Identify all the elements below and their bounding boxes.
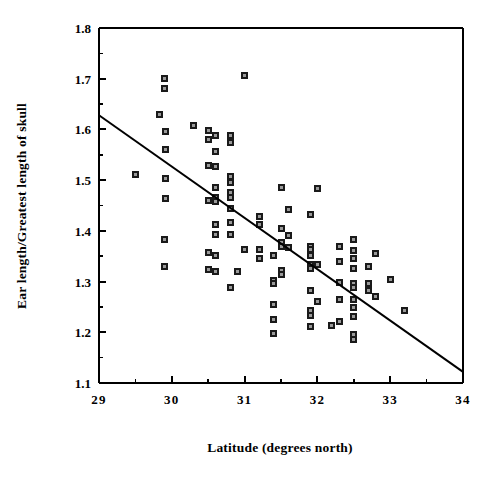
data-point [350,255,357,262]
data-point [350,336,357,343]
data-point [205,266,212,273]
y-tick-label: 1.4 [75,224,92,239]
x-tick-label: 33 [382,392,397,407]
data-point [387,276,394,283]
data-point [227,139,234,146]
data-point [132,171,139,178]
x-tick-label: 34 [455,392,470,407]
y-tick-label: 1.5 [75,173,92,188]
data-point [190,122,197,129]
data-point [372,293,379,300]
data-point [234,268,241,275]
data-point [350,265,357,272]
data-point [285,232,292,239]
data-point [227,284,234,291]
data-point [270,316,277,323]
data-point [336,258,343,265]
data-point [256,246,263,253]
data-point [365,280,372,287]
y-axis-title: Ear length/Greatest length of skull [14,103,29,309]
y-tick-label: 1.1 [75,376,91,391]
data-point [278,225,285,232]
x-tick-label: 32 [310,392,325,407]
data-point [212,148,219,155]
x-tick-label: 29 [91,392,106,407]
data-point [256,213,263,220]
data-point [307,252,314,259]
data-point [227,132,234,139]
data-point [350,284,357,291]
data-point [205,197,212,204]
y-tick-label: 1.7 [75,72,92,87]
data-point [278,271,285,278]
data-point [212,231,219,238]
data-point [285,206,292,213]
y-tick-label: 1.6 [75,122,92,137]
data-point [161,236,168,243]
data-point [205,162,212,169]
data-point [212,132,219,139]
data-point [161,263,168,270]
data-point [307,211,314,218]
data-point [314,298,321,305]
data-point [212,252,219,259]
data-point [227,173,234,180]
data-point [227,219,234,226]
data-point [307,287,314,294]
data-point [307,312,314,319]
data-point [336,318,343,325]
data-point [336,243,343,250]
y-tick-label: 1.8 [75,21,92,36]
data-point [205,136,212,143]
data-point [256,255,263,262]
data-point [401,307,408,314]
data-point [161,85,168,92]
data-point [205,249,212,256]
data-point [350,247,357,254]
data-point [162,175,169,182]
data-point [156,111,163,118]
data-point [365,263,372,270]
data-point [241,246,248,253]
data-point [212,184,219,191]
data-point [227,194,234,201]
data-point [212,268,219,275]
data-point [350,313,357,320]
data-point [350,304,357,311]
data-point [307,323,314,330]
plot-canvas: 1.11.21.31.41.51.61.71.8 293031323334 Ea… [0,0,496,479]
data-point [270,252,277,259]
data-point [162,128,169,135]
data-point [350,236,357,243]
data-point [212,221,219,228]
data-point [212,163,219,170]
data-point [314,185,321,192]
data-point [162,195,169,202]
scatter-plot-figure: 1.11.21.31.41.51.61.71.8 293031323334 Ea… [0,0,496,479]
data-point [278,184,285,191]
data-point [162,146,169,153]
data-point [365,287,372,294]
data-point [270,301,277,308]
y-tick-label: 1.3 [75,275,92,290]
x-tick-label: 31 [237,392,252,407]
y-tick-label: 1.2 [75,325,91,340]
data-point [270,280,277,287]
data-point [336,296,343,303]
data-point [205,127,212,134]
data-point [328,322,335,329]
x-tick-label: 30 [164,392,179,407]
data-point [227,231,234,238]
data-point [241,72,248,79]
data-point [270,330,277,337]
data-point [372,250,379,257]
data-point [227,179,234,186]
data-point [161,75,168,82]
x-axis-title: Latitude (degrees north) [207,440,353,455]
